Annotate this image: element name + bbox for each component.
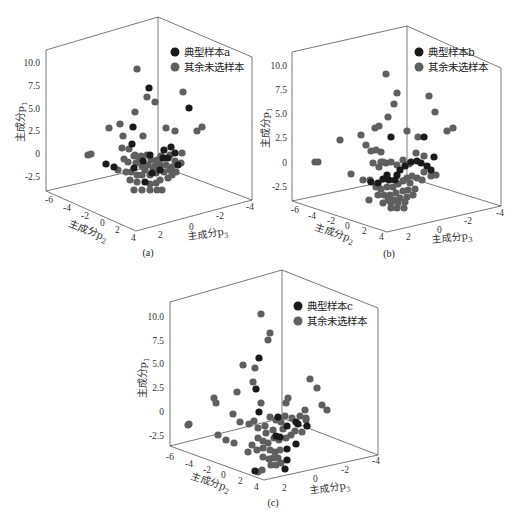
data-point bbox=[145, 84, 152, 91]
data-point bbox=[314, 158, 321, 165]
data-point bbox=[214, 431, 221, 438]
svg-text:-2: -2 bbox=[81, 211, 89, 221]
legend-marker-other bbox=[171, 63, 180, 72]
data-point bbox=[179, 88, 186, 95]
data-point bbox=[393, 89, 400, 96]
data-point bbox=[251, 467, 258, 474]
data-point bbox=[401, 198, 408, 205]
data-point bbox=[143, 93, 150, 100]
data-point bbox=[369, 159, 376, 166]
legend: 典型样本a 其余未选样本 bbox=[171, 46, 246, 73]
data-point bbox=[174, 161, 181, 168]
data-point bbox=[167, 143, 174, 150]
legend-marker-typical bbox=[294, 302, 303, 311]
data-point bbox=[367, 178, 374, 185]
legend-label-typical: 典型样本a bbox=[184, 46, 230, 58]
data-point bbox=[276, 433, 283, 440]
data-point bbox=[281, 465, 288, 472]
svg-text:2: 2 bbox=[115, 225, 120, 235]
data-point bbox=[449, 124, 456, 131]
caption: (a) bbox=[142, 247, 153, 259]
data-point bbox=[139, 132, 146, 139]
svg-text:2: 2 bbox=[238, 476, 243, 486]
svg-text:-2: -2 bbox=[464, 216, 472, 226]
data-point bbox=[133, 65, 140, 72]
legend-marker-other bbox=[415, 63, 424, 72]
svg-text:4: 4 bbox=[379, 232, 384, 242]
data-point bbox=[156, 176, 163, 183]
data-point bbox=[164, 154, 171, 161]
data-point bbox=[323, 406, 330, 413]
data-point bbox=[257, 310, 264, 317]
legend-marker-other bbox=[294, 317, 303, 326]
data-point bbox=[365, 196, 372, 203]
data-point bbox=[382, 70, 389, 77]
data-point bbox=[430, 153, 437, 160]
data-point bbox=[239, 361, 246, 368]
data-point bbox=[282, 399, 289, 406]
points-other bbox=[84, 65, 205, 193]
data-point bbox=[258, 466, 265, 473]
data-point bbox=[362, 141, 369, 148]
svg-text:2: 2 bbox=[158, 230, 163, 240]
data-point bbox=[250, 417, 257, 424]
data-point bbox=[418, 176, 425, 183]
data-point bbox=[126, 176, 133, 183]
data-point bbox=[266, 329, 273, 336]
caption: (b) bbox=[383, 248, 395, 260]
svg-text:-2: -2 bbox=[216, 211, 224, 221]
data-point bbox=[198, 123, 205, 130]
data-point bbox=[407, 158, 414, 165]
points-other bbox=[184, 310, 330, 475]
svg-text:-4: -4 bbox=[63, 203, 71, 213]
caption: (c) bbox=[267, 497, 278, 509]
legend-label-other: 其余未选样本 bbox=[307, 315, 368, 327]
data-point bbox=[110, 163, 117, 170]
data-point bbox=[359, 176, 366, 183]
data-point bbox=[129, 123, 136, 130]
data-point bbox=[146, 151, 153, 158]
legend-label-other: 其余未选样本 bbox=[428, 61, 489, 73]
legend: 典型样本c 其余未选样本 bbox=[294, 300, 369, 327]
data-point bbox=[292, 440, 299, 447]
data-point bbox=[281, 412, 288, 419]
data-point bbox=[141, 166, 148, 173]
z-axis-label: 主成分p1 bbox=[137, 358, 151, 399]
legend-marker-typical bbox=[415, 48, 424, 57]
data-point bbox=[156, 166, 163, 173]
data-point bbox=[124, 158, 131, 165]
data-point bbox=[233, 388, 240, 395]
svg-text:7.5: 7.5 bbox=[152, 336, 164, 346]
data-point bbox=[158, 186, 165, 193]
p3-axis-label: 主成分p3 bbox=[431, 230, 473, 248]
data-point bbox=[210, 394, 217, 401]
data-point bbox=[264, 336, 271, 343]
data-point bbox=[105, 124, 112, 131]
data-point bbox=[357, 131, 364, 138]
data-point bbox=[303, 422, 310, 429]
data-point bbox=[257, 399, 264, 406]
data-point bbox=[252, 385, 259, 392]
data-point bbox=[148, 169, 155, 176]
data-point bbox=[377, 148, 384, 155]
data-point bbox=[255, 408, 262, 415]
data-point bbox=[160, 146, 167, 153]
scatter3d-c: 10.0 7.5 5.0 2.5 0 -2.5 主成分p1 -6 -4 -2 0… bbox=[130, 260, 390, 523]
svg-text:-4: -4 bbox=[246, 202, 254, 212]
svg-text:主成分p1: 主成分p1 bbox=[260, 108, 274, 149]
data-point bbox=[139, 157, 146, 164]
data-point bbox=[146, 186, 153, 193]
svg-text:2.5: 2.5 bbox=[275, 133, 287, 143]
svg-text:-2.5: -2.5 bbox=[149, 431, 164, 441]
svg-text:0: 0 bbox=[35, 149, 40, 159]
svg-text:10.0: 10.0 bbox=[270, 61, 287, 71]
chart-panel-b: 10.0 7.5 5.0 2.5 0 -2.5 主成分p1 -6 -4 -2 0… bbox=[260, 0, 519, 262]
svg-text:2: 2 bbox=[282, 483, 287, 493]
data-point bbox=[371, 124, 378, 131]
data-point bbox=[128, 140, 135, 147]
data-point bbox=[259, 444, 266, 451]
svg-text:0: 0 bbox=[313, 474, 318, 484]
data-point bbox=[390, 100, 397, 107]
data-point bbox=[393, 204, 400, 211]
data-point bbox=[171, 127, 178, 134]
